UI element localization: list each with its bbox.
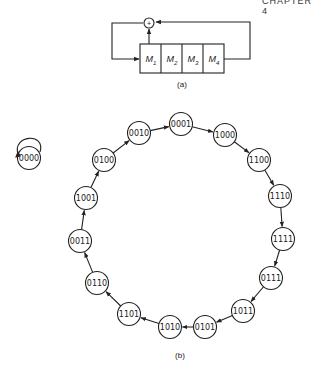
state-label: 0001 xyxy=(171,120,191,129)
state-label: 0100 xyxy=(94,156,114,165)
state-label: 0101 xyxy=(195,323,215,332)
cell-m3: M3 xyxy=(188,54,199,66)
page-header: CHAPTER 4 xyxy=(262,0,313,16)
cell-m1: M1 xyxy=(146,54,157,66)
figure-a-label: (a) xyxy=(177,80,187,89)
diagram-canvas xyxy=(0,0,313,378)
state-label: 0011 xyxy=(70,237,90,246)
state-label: 1100 xyxy=(249,156,269,165)
state-label: 0111 xyxy=(261,274,281,283)
state-label: 1000 xyxy=(215,131,235,140)
cell-m4: M4 xyxy=(209,54,220,66)
state-label: 1001 xyxy=(76,194,96,203)
state-label: 1110 xyxy=(270,192,290,201)
adder-symbol: + xyxy=(147,20,151,27)
figure-b-label: (b) xyxy=(175,351,185,360)
state-0000-label: 0000 xyxy=(19,154,39,163)
state-label: 1101 xyxy=(119,310,139,319)
state-label: 1010 xyxy=(160,323,180,332)
state-label: 1111 xyxy=(273,235,293,244)
state-cycle xyxy=(69,113,295,339)
state-label: 0010 xyxy=(129,129,149,138)
state-label: 0110 xyxy=(87,279,107,288)
state-label: 1011 xyxy=(233,307,253,316)
cell-m2: M2 xyxy=(167,54,178,66)
